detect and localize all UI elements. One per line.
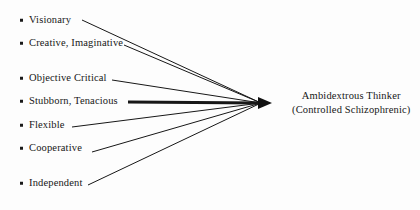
- connector-line: [88, 103, 261, 185]
- connector-line: [124, 45, 261, 103]
- trait-item-flexible: Flexible: [20, 120, 65, 131]
- trait-item-creative-imaginative: Creative, Imaginative: [20, 38, 123, 49]
- trait-label: Independent: [29, 178, 83, 189]
- square-bullet-icon: [20, 19, 23, 22]
- square-bullet-icon: [20, 42, 23, 45]
- trait-label: Objective Critical: [29, 73, 107, 84]
- square-bullet-icon: [20, 182, 23, 185]
- trait-item-cooperative: Cooperative: [20, 143, 82, 154]
- square-bullet-icon: [20, 100, 23, 103]
- trait-label: Visionary: [29, 15, 71, 26]
- target-node-label: Ambidextrous Thinker (Controlled Schizop…: [292, 89, 411, 117]
- target-title-line: Ambidextrous Thinker: [292, 89, 411, 103]
- square-bullet-icon: [20, 77, 23, 80]
- diagram-canvas: Visionary Creative, Imaginative Objectiv…: [0, 0, 420, 210]
- target-subtitle-line: (Controlled Schizophrenic): [292, 103, 411, 117]
- trait-label: Cooperative: [29, 143, 82, 154]
- connector-line: [72, 103, 261, 127]
- trait-item-objective-critical: Objective Critical: [20, 73, 107, 84]
- connector-line: [128, 102, 261, 103]
- connector-line: [112, 80, 261, 103]
- trait-label: Stubborn, Tenacious: [29, 96, 118, 107]
- connector-line: [92, 103, 261, 152]
- trait-label: Flexible: [29, 120, 65, 131]
- square-bullet-icon: [20, 124, 23, 127]
- trait-item-visionary: Visionary: [20, 15, 71, 26]
- trait-label: Creative, Imaginative: [29, 38, 123, 49]
- arrowhead-icon: [258, 97, 272, 109]
- trait-item-stubborn-tenacious: Stubborn, Tenacious: [20, 96, 118, 107]
- connector-line: [82, 20, 261, 103]
- square-bullet-icon: [20, 147, 23, 150]
- trait-item-independent: Independent: [20, 178, 83, 189]
